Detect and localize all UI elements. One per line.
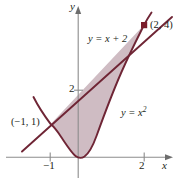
parabola-equation-label: y = x2: [121, 108, 146, 119]
line-equation-label: y = x + 2: [88, 34, 127, 45]
y-axis-label: y: [70, 1, 75, 12]
parabola-equation-base: y = x: [121, 107, 143, 118]
y-tick-label-2: 2: [69, 83, 75, 94]
point-label-2-4: (2, 4): [150, 20, 173, 31]
parabola-equation-exponent: 2: [143, 105, 147, 114]
graph-figure: y x −1 2 2 y = x + 2 y = x2 (2, 4) (−1, …: [0, 0, 183, 181]
x-tick-label-neg1: −1: [43, 160, 55, 171]
x-axis-label: x: [162, 160, 167, 171]
y-axis-arrowhead: [75, 6, 81, 14]
shaded-region: [51, 25, 144, 158]
point-marker-2-4: [141, 22, 147, 28]
x-tick-label-2: 2: [139, 160, 145, 171]
point-label-neg1-1: (−1, 1): [11, 117, 40, 128]
